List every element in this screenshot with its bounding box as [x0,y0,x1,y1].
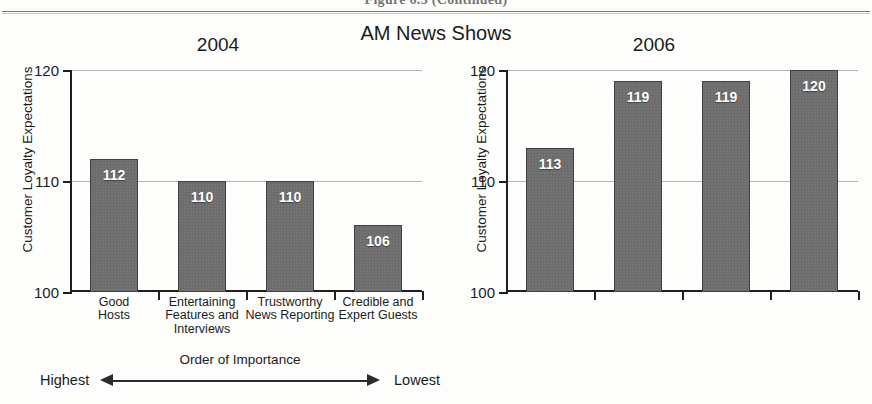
panel-year-label: 2004 [0,34,436,56]
bar: 112 [90,159,139,292]
category-label-line: Credible and [328,296,428,309]
bar: 110 [178,181,227,292]
bar-value-label: 112 [91,167,138,183]
bar-value-label: 119 [615,89,662,105]
y-axis-line [506,70,508,292]
x-axis-tick [770,291,772,300]
panel-year-label: 2006 [436,34,872,56]
arrow-right-icon [367,374,380,386]
y-axis-tick-label: 110 [35,174,59,189]
bar: 113 [526,148,575,292]
x-axis-category-label: EntertainingFeatures andInterviews [152,296,252,336]
order-label-lowest: Lowest [394,372,440,388]
y-axis-tick-label: 100 [34,285,59,300]
bar: 110 [266,181,315,292]
category-label-line: Features and [152,309,252,322]
bar: 119 [702,81,751,292]
plot-area: 100110120113119119120 [506,70,858,292]
x-axis-tick [682,291,684,300]
bar-value-label: 113 [527,156,574,172]
category-label-line: Hosts [64,309,164,322]
order-of-importance-title: Order of Importance [40,352,440,367]
bar: 106 [354,225,403,292]
category-label-line: Entertaining [152,296,252,309]
category-label-line: Good [64,296,164,309]
x-axis-category-row: GoodHostsEntertainingFeatures andIntervi… [70,296,422,350]
order-arrow-line [112,380,368,382]
y-axis-tick [499,292,508,294]
order-of-importance-block: Order of ImportanceHighestLowest [40,352,440,398]
bar-value-label: 110 [179,189,226,205]
x-axis-tick [858,291,860,300]
bar: 119 [614,81,663,292]
bar-value-label: 119 [703,89,750,105]
plot-area: 100110120112110110106 [70,70,422,292]
y-axis-tick [63,292,72,294]
y-axis-tick-label: 100 [470,285,495,300]
x-axis-category-label: TrustworthyNews Reporting [240,296,340,323]
y-axis-title: Customer Loyalty Expectations [20,40,35,280]
category-label-line: Interviews [152,323,252,336]
category-label-line: Expert Guests [328,309,428,322]
y-axis-tick-label: 120 [470,63,495,78]
bar-value-label: 106 [355,233,402,249]
category-label-line: Trustworthy [240,296,340,309]
x-axis-category-label: GoodHosts [64,296,164,323]
chart-panel-2004: 2004Customer Loyalty Expectations1001101… [0,0,436,404]
chart-panel-2006: 2006Customer Loyalty Expectations1001101… [436,0,872,404]
arrow-left-icon [100,374,113,386]
category-label-line: News Reporting [240,309,340,322]
y-gridline [70,70,422,71]
bar: 120 [790,70,839,292]
x-axis-category-label: Credible andExpert Guests [328,296,428,323]
x-axis-tick [594,291,596,300]
bar-value-label: 120 [791,78,838,94]
y-axis-line [70,70,72,292]
y-axis-tick-label: 110 [471,174,495,189]
y-axis-tick-label: 120 [34,63,59,78]
bar-value-label: 110 [267,189,314,205]
order-label-highest: Highest [40,372,89,388]
